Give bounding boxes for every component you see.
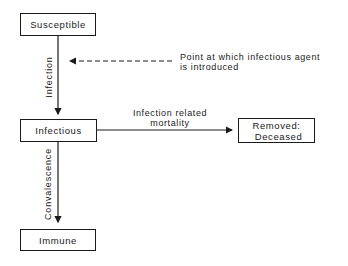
node-infectious: Infectious (20, 119, 97, 142)
edge-label-mortality-line2: mortality (120, 118, 220, 128)
edge-label-infection: Infection (44, 54, 54, 100)
annotation-line2: is introduced (180, 62, 320, 72)
node-removed-label: Removed: (252, 120, 300, 131)
node-infectious-label: Infectious (35, 125, 82, 136)
node-susceptible-label: Susceptible (30, 19, 86, 30)
annotation-line1: Point at which infectious agent (180, 52, 320, 62)
node-removed-deceased: Removed: Deceased (238, 118, 315, 143)
edge-label-mortality: Infection related mortality (120, 108, 220, 128)
node-immune-label: Immune (39, 235, 77, 246)
edge-label-convalescence: Convalescence (43, 147, 53, 221)
node-susceptible: Susceptible (20, 13, 96, 36)
annotation-introduction: Point at which infectious agent is intro… (180, 52, 320, 72)
node-deceased-label: Deceased (251, 131, 303, 142)
edge-label-mortality-line1: Infection related (120, 108, 220, 118)
node-immune: Immune (20, 229, 96, 251)
